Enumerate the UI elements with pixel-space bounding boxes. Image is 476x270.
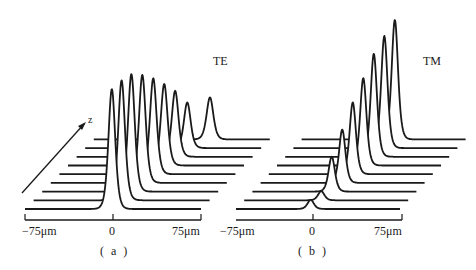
panel-b-caption: ( b ): [298, 244, 328, 259]
te-tick-zero: 0: [109, 224, 115, 239]
te-label: TE: [213, 54, 228, 69]
tm-tick-right: 75μm: [374, 224, 402, 239]
z-axis-label: z: [88, 114, 92, 125]
tm-tick-left: −75μm: [220, 224, 255, 239]
tm-waterfall-plot: [236, 20, 466, 210]
te-tick-left: −75μm: [22, 224, 57, 239]
tm-label: TM: [423, 54, 441, 69]
te-x-axis: [25, 214, 201, 220]
te-tick-right: 75μm: [172, 224, 200, 239]
tm-x-axis: [236, 214, 402, 220]
tm-tick-zero: 0: [309, 224, 315, 239]
panel-a-caption: ( a ): [100, 244, 129, 259]
te-waterfall-plot: [25, 74, 270, 210]
